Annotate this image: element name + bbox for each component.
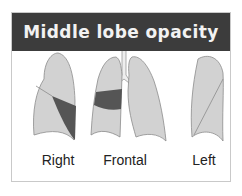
frontal-lungs-icon: [91, 51, 166, 141]
view-label-frontal: Frontal: [103, 152, 147, 168]
left-lateral-lung-icon: [191, 56, 223, 141]
diagram-card: Middle lobe opacity Right Frontal Left: [11, 12, 231, 182]
lung-diagrams: [12, 51, 232, 151]
right-lateral-lung-icon: [33, 53, 76, 140]
diagram-title: Middle lobe opacity: [23, 22, 219, 42]
title-bar: Middle lobe opacity: [12, 13, 230, 51]
view-label-right: Right: [42, 152, 75, 168]
view-label-left: Left: [192, 152, 215, 168]
